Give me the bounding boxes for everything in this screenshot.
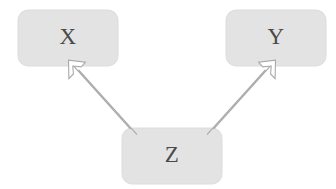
causal-diagram-canvas: X Y Z bbox=[0, 0, 336, 189]
node-x[interactable]: X bbox=[18, 10, 118, 66]
node-x-label: X bbox=[59, 24, 76, 49]
edge-z-to-x-shaft bbox=[73, 65, 137, 134]
edge-z-to-x-arrow[interactable] bbox=[69, 60, 137, 134]
edge-z-to-y-arrow[interactable] bbox=[207, 60, 275, 134]
node-y-label: Y bbox=[267, 24, 284, 49]
node-z-label: Z bbox=[165, 142, 180, 167]
edge-z-to-y-shaft bbox=[207, 65, 271, 134]
node-y[interactable]: Y bbox=[226, 10, 326, 66]
causal-graph-svg: X Y Z bbox=[0, 0, 336, 189]
node-z[interactable]: Z bbox=[122, 128, 222, 184]
